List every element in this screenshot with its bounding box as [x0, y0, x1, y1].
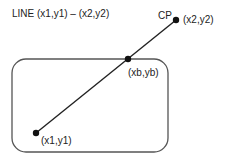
cp-label: CP: [158, 10, 172, 21]
boundary-point-dot: [125, 56, 131, 62]
diagram-title: LINE (x1,y1) – (x2,y2): [12, 8, 109, 19]
end-point-dot: [173, 17, 179, 23]
start-point-label: (x1,y1): [41, 135, 72, 146]
end-point-label: (x2,y2): [183, 14, 214, 25]
boundary-point-label: (xb,yb): [128, 67, 159, 78]
start-point-dot: [33, 130, 39, 136]
